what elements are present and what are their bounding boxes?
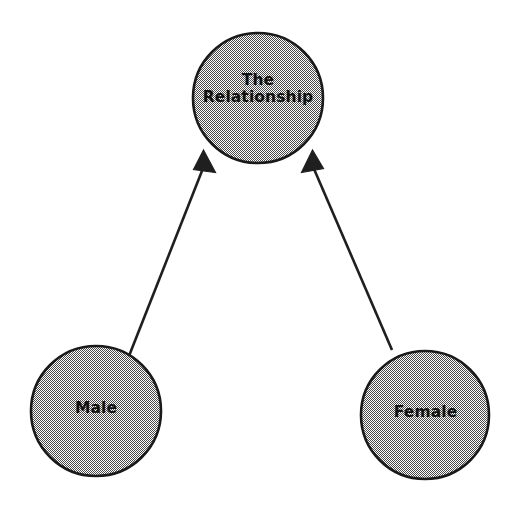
edge-female-to-relationship — [302, 150, 393, 350]
arrowhead-female — [302, 150, 324, 173]
node-circle-male[interactable] — [31, 346, 161, 476]
edge-male-to-relationship — [129, 150, 216, 356]
edge-line-male — [129, 162, 206, 356]
diagram-svg — [0, 0, 512, 505]
diagram-canvas: The Relationship Male Female — [0, 0, 512, 505]
node-circle-female[interactable] — [361, 351, 489, 479]
edge-line-female — [311, 162, 392, 350]
node-circle-relationship[interactable] — [193, 33, 323, 163]
arrowhead-male — [194, 150, 216, 173]
